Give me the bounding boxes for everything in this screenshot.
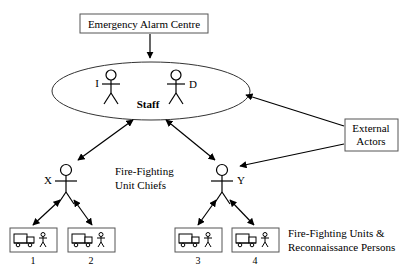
arrow-chief-x-unit-1 xyxy=(33,200,60,225)
units-caption-line1: Fire-Fighting Units & xyxy=(288,227,385,239)
external-actors-label-line2: Actors xyxy=(356,135,385,147)
staff-group-label: Staff xyxy=(137,98,160,110)
arrow-staff-chief-y xyxy=(166,120,215,160)
emergency-alarm-centre-label: Emergency Alarm Centre xyxy=(88,18,200,30)
arrow-staff-chief-x xyxy=(78,120,133,160)
unit-box-2-number: 2 xyxy=(89,255,94,266)
external-actors-box: External Actors xyxy=(345,119,398,151)
chief-x-label: X xyxy=(44,174,52,186)
unit-box-3-number: 3 xyxy=(196,255,201,266)
unit-box-1: 1 xyxy=(10,228,57,266)
staff-actor-I-label: I xyxy=(95,77,99,89)
unit-box-1-number: 1 xyxy=(31,255,36,266)
emergency-alarm-centre-box: Emergency Alarm Centre xyxy=(80,14,208,33)
arrow-chief-y-unit-3 xyxy=(198,200,216,225)
chiefs-caption-line2: Unit Chiefs xyxy=(115,179,166,191)
external-actors-label-line1: External xyxy=(352,122,389,134)
unit-box-2: 2 xyxy=(68,228,115,266)
arrow-external-to-chief-y xyxy=(240,144,344,166)
arrow-external-to-staff xyxy=(246,95,344,126)
chief-y-label: Y xyxy=(237,174,245,186)
unit-box-4-number: 4 xyxy=(253,255,258,266)
chiefs-caption-line1: Fire-Fighting xyxy=(115,165,174,177)
staff-group: I D Staff xyxy=(52,62,250,120)
units-caption-line2: Reconnaissance Persons xyxy=(288,241,395,253)
arrow-chief-x-unit-2 xyxy=(74,200,92,225)
diagram-canvas: Emergency Alarm Centre I xyxy=(0,0,403,279)
staff-actor-D-label: D xyxy=(189,78,197,90)
unit-box-3: 3 xyxy=(175,228,222,266)
chief-x: X xyxy=(44,165,77,205)
diagram-svg: Emergency Alarm Centre I xyxy=(0,0,403,279)
staff-ellipse xyxy=(52,62,250,120)
chief-y: Y xyxy=(211,165,245,205)
unit-box-4: 4 xyxy=(232,228,279,266)
arrow-chief-y-unit-4 xyxy=(230,200,254,225)
